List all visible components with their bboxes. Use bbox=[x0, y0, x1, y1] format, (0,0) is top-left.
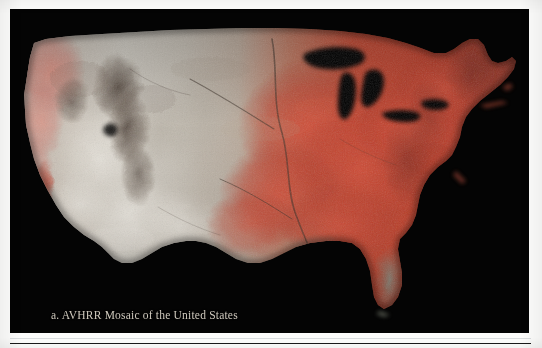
figure-caption: a. AVHRR Mosaic of the United States bbox=[51, 309, 238, 321]
document-page: a. AVHRR Mosaic of the United States bbox=[0, 0, 542, 348]
page-bottom-rule bbox=[10, 343, 531, 344]
figure-plate: a. AVHRR Mosaic of the United States bbox=[10, 9, 529, 333]
avhrr-mosaic-image bbox=[10, 9, 529, 333]
caption-underline-soft bbox=[10, 338, 531, 339]
